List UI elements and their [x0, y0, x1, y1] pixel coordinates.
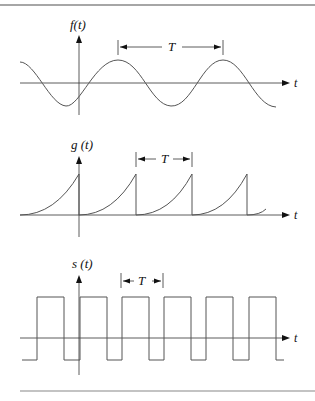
period-left-arrow-icon: [123, 279, 130, 284]
sinusoid-curve: [20, 60, 276, 107]
f-axis-arrow-icon: [76, 35, 82, 43]
t-axis-label: t: [294, 331, 298, 345]
period-label: T: [168, 39, 176, 54]
sawtooth-curve: [20, 174, 266, 215]
f-axis-label: f(t): [70, 17, 86, 32]
t-axis-arrow-icon: [282, 80, 290, 86]
g-axis-label: g (t): [71, 137, 93, 152]
t-axis-label: t: [294, 76, 298, 90]
panel-sinusoid: t f(t) T: [20, 17, 298, 115]
periodic-signals-figure: t f(t) T t g (t) T t s (t): [0, 0, 315, 401]
period-label: T: [138, 273, 146, 288]
panel-square-wave: t s (t) T: [20, 256, 298, 375]
t-axis-arrow-icon: [282, 335, 290, 341]
s-axis-arrow-icon: [76, 275, 82, 283]
period-right-arrow-icon: [154, 279, 161, 284]
square-wave-curve: [22, 297, 284, 360]
t-axis-label: t: [294, 208, 298, 222]
period-label: T: [161, 151, 169, 166]
period-right-arrow-icon: [214, 45, 221, 50]
t-axis-arrow-icon: [282, 212, 290, 218]
period-left-arrow-icon: [138, 157, 145, 162]
g-axis-arrow-icon: [76, 156, 82, 164]
panel-sawtooth: t g (t) T: [20, 137, 298, 237]
period-left-arrow-icon: [120, 45, 127, 50]
s-axis-label: s (t): [72, 256, 93, 271]
period-right-arrow-icon: [183, 157, 190, 162]
